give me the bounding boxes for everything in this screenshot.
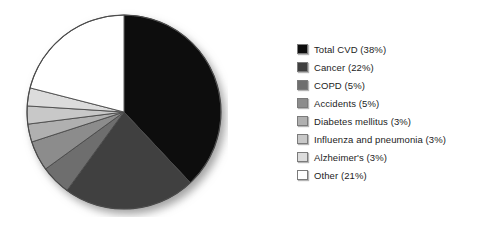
pie-chart-plot-area: Total CVD (38%)Cancer (22%)COPD (5%)Acci… <box>22 9 228 217</box>
legend-item: Cancer (22%) <box>297 58 477 76</box>
pie-chart-svg: Total CVD (38%)Cancer (22%)COPD (5%)Acci… <box>22 9 228 217</box>
legend-item-label: Influenza and pneumonia (3%) <box>314 134 446 145</box>
pie-chart-figure: Total CVD (38%)Cancer (22%)COPD (5%)Acci… <box>0 0 481 235</box>
legend-swatch-icon <box>297 80 308 90</box>
legend-item-label: Diabetes mellitus (3%) <box>314 116 411 127</box>
legend-item: Influenza and pneumonia (3%) <box>297 130 477 148</box>
legend-swatch-icon <box>297 98 308 108</box>
legend-swatch-icon <box>297 170 308 180</box>
legend-item: Alzheimer's (3%) <box>297 148 477 166</box>
legend-item-label: Cancer (22%) <box>314 62 374 73</box>
legend-item: COPD (5%) <box>297 76 477 94</box>
pie-slice-group: Total CVD (38%)Cancer (22%)COPD (5%)Acci… <box>27 15 221 209</box>
legend-item: Diabetes mellitus (3%) <box>297 112 477 130</box>
legend-item: Total CVD (38%) <box>297 40 477 58</box>
legend-swatch-icon <box>297 62 308 72</box>
legend-item: Accidents (5%) <box>297 94 477 112</box>
chart-legend: Total CVD (38%)Cancer (22%)COPD (5%)Acci… <box>297 40 477 184</box>
legend-swatch-icon <box>297 116 308 126</box>
legend-item-label: Accidents (5%) <box>314 98 379 109</box>
legend-item-label: Total CVD (38%) <box>314 44 386 55</box>
legend-item: Other (21%) <box>297 166 477 184</box>
legend-item-label: Other (21%) <box>314 170 367 181</box>
legend-swatch-icon <box>297 134 308 144</box>
legend-swatch-icon <box>297 44 308 54</box>
legend-item-label: Alzheimer's (3%) <box>314 152 387 163</box>
legend-swatch-icon <box>297 152 308 162</box>
legend-item-label: COPD (5%) <box>314 80 365 91</box>
